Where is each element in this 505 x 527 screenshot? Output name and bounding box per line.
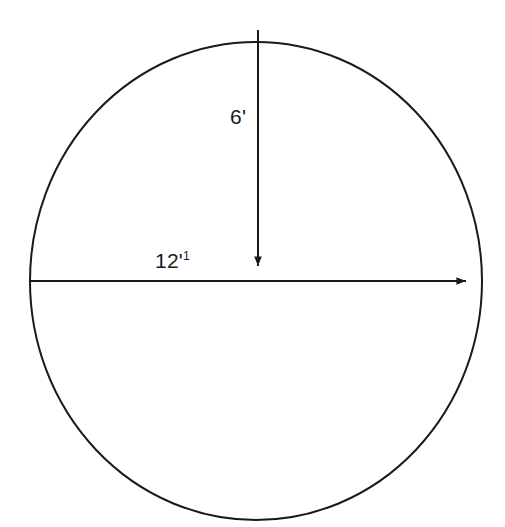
diameter-dimension-label: 12'1: [155, 250, 190, 271]
diameter-label-text: 12': [155, 249, 183, 272]
radius-label-text: 6': [230, 105, 246, 128]
diameter-label-superscript: 1: [183, 249, 190, 263]
diagram-canvas: [0, 0, 505, 527]
circle-diagram-figure: 12'1 6': [0, 0, 505, 527]
radius-dimension-label: 6': [230, 106, 246, 127]
